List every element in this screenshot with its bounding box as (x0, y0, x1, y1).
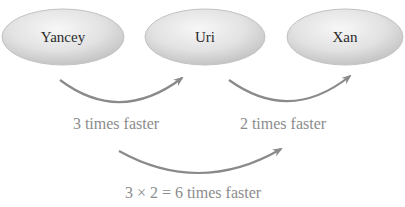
edge-yancey-xan-label: 3 × 2 = 6 times faster (125, 184, 262, 201)
edge-uri-xan: 2 times faster (229, 76, 350, 132)
node-yancey: Yancey (2, 9, 124, 65)
edge-yancey-uri-label: 3 times faster (73, 115, 160, 132)
curved-arrow-icon (60, 78, 182, 102)
edge-yancey-xan: 3 × 2 = 6 times faster (119, 149, 281, 201)
node-uri: Uri (145, 9, 265, 65)
node-xan: Xan (287, 9, 403, 65)
node-xan-label: Xan (333, 29, 358, 45)
curved-arrow-icon (119, 149, 281, 173)
edge-yancey-uri: 3 times faster (60, 78, 182, 132)
node-uri-label: Uri (195, 29, 215, 45)
node-yancey-label: Yancey (41, 29, 86, 45)
speed-comparison-diagram: Yancey Uri Xan 3 times faster 2 times fa… (0, 0, 405, 207)
curved-arrow-icon (229, 76, 350, 101)
edge-uri-xan-label: 2 times faster (240, 115, 327, 132)
